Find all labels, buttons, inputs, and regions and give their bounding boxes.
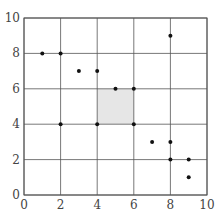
data-point [132, 87, 136, 91]
x-tick-label: 10 [199, 198, 214, 212]
data-point [114, 87, 118, 91]
data-point [187, 175, 191, 179]
data-point [132, 122, 136, 126]
data-point [95, 122, 99, 126]
x-tick-label: 8 [167, 198, 175, 212]
x-tick-label: 2 [57, 198, 65, 212]
y-tick-label: 4 [12, 117, 20, 131]
data-point [150, 140, 154, 144]
data-point [59, 51, 63, 55]
x-tick-label: 4 [93, 198, 101, 212]
y-tick-label: 8 [12, 46, 20, 60]
x-axis-tick-labels: 0246810 [20, 198, 214, 212]
y-axis-tick-labels: 0246810 [5, 11, 21, 202]
data-point [187, 158, 191, 162]
data-point [95, 69, 99, 73]
y-tick-label: 0 [12, 188, 20, 202]
scatter-plot: 0246810 0246810 [0, 0, 222, 213]
data-point [168, 158, 172, 162]
x-tick-label: 6 [130, 198, 138, 212]
data-point [40, 51, 44, 55]
data-point [168, 140, 172, 144]
y-tick-label: 6 [12, 82, 20, 96]
shaded-region [97, 89, 134, 124]
data-point [168, 34, 172, 38]
y-tick-label: 2 [12, 153, 20, 167]
data-point [59, 122, 63, 126]
shaded-square [97, 89, 134, 124]
y-tick-label: 10 [5, 11, 20, 25]
x-tick-label: 0 [20, 198, 28, 212]
data-point [77, 69, 81, 73]
